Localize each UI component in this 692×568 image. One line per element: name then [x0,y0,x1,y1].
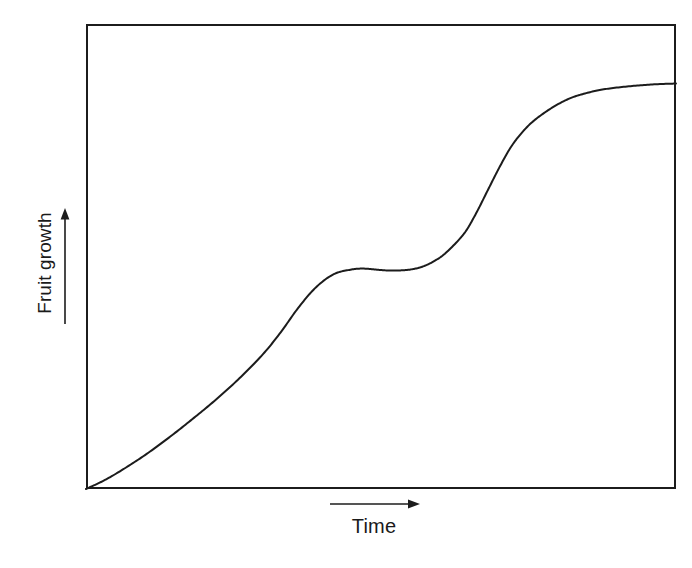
right-arrow-svg [329,496,421,512]
x-axis-label: Time [288,515,460,538]
plot-frame [86,24,676,489]
y-axis-label-group: Fruit growth [16,196,80,346]
y-axis-label: Fruit growth [34,192,56,334]
fruit-growth-figure: Fruit growth Time [0,0,692,568]
up-arrow-svg [58,206,72,326]
right-arrow-icon [329,496,421,512]
cropped-caption-strip [0,560,692,568]
up-arrow-icon [58,206,72,326]
x-axis-label-group: Time [288,496,460,556]
